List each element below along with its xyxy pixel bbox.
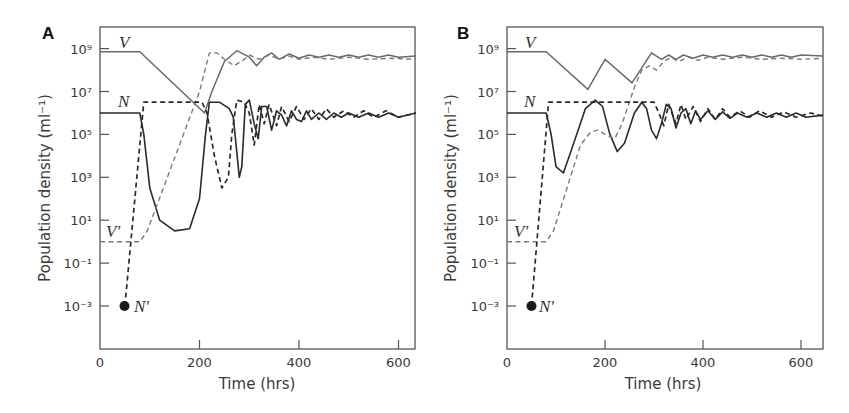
figure: A Population density (ml⁻¹) Time (hrs) 1… bbox=[0, 0, 849, 413]
curve-v-prime bbox=[100, 53, 416, 242]
panel-b: B Population density (ml⁻¹) Time (hrs) 1… bbox=[442, 24, 823, 393]
y-tick-label: 10⁷ bbox=[477, 85, 499, 100]
y-tick-label: 10¹ bbox=[477, 213, 499, 228]
y-tick-label: 10⁹ bbox=[70, 42, 92, 57]
y-tick-label: 10³ bbox=[477, 170, 499, 185]
x-tick-label: 0 bbox=[96, 355, 104, 370]
curve-label-vprime-a: V′ bbox=[106, 222, 120, 241]
curve-label-nprime-b: N′ bbox=[538, 297, 554, 316]
curve-v bbox=[100, 51, 416, 113]
x-tick-label: 200 bbox=[593, 355, 618, 370]
curves-a bbox=[100, 51, 416, 306]
x-tick-label: 400 bbox=[287, 355, 312, 370]
y-tick-label: 10⁻¹ bbox=[470, 256, 499, 271]
y-tick-label: 10¹ bbox=[70, 213, 92, 228]
curve-label-v-b: V bbox=[525, 33, 538, 52]
x-tick-label: 600 bbox=[386, 355, 411, 370]
initial-point-marker-b bbox=[527, 301, 537, 311]
y-tick-label: 10⁻³ bbox=[63, 299, 92, 314]
panel-label-a: A bbox=[42, 24, 54, 43]
y-tick-label: 10⁹ bbox=[477, 42, 499, 57]
curve-label-nprime-a: N′ bbox=[133, 297, 149, 316]
y-axis-title-b: Population density (ml⁻¹) bbox=[442, 94, 460, 282]
y-tick-label: 10⁻¹ bbox=[63, 256, 92, 271]
curve-n bbox=[507, 100, 823, 173]
curve-n-prime bbox=[125, 100, 416, 306]
curve-label-vprime-b: V′ bbox=[514, 222, 528, 241]
curve-label-n-a: N bbox=[117, 92, 131, 111]
curve-v bbox=[507, 52, 823, 90]
y-tick-label: 10⁵ bbox=[477, 127, 499, 142]
y-tick-label: 10⁻³ bbox=[470, 299, 499, 314]
y-tick-label: 10⁷ bbox=[70, 85, 92, 100]
x-tick-label: 200 bbox=[187, 355, 212, 370]
x-tick-label: 0 bbox=[503, 355, 511, 370]
curve-label-n-b: N bbox=[523, 92, 537, 111]
plot-frame-b bbox=[507, 27, 823, 349]
x-axis-title-a: Time (hrs) bbox=[218, 375, 296, 393]
curves-b bbox=[507, 52, 823, 306]
panel-a: A Population density (ml⁻¹) Time (hrs) 1… bbox=[36, 24, 416, 393]
x-axis-title-b: Time (hrs) bbox=[624, 375, 702, 393]
axis-ticks-b: 10⁹10⁷10⁵10³10¹10⁻¹10⁻³0200400600 bbox=[470, 42, 813, 370]
axis-ticks-a: 10⁹10⁷10⁵10³10¹10⁻¹10⁻³0200400600 bbox=[63, 42, 411, 370]
y-axis-title-a: Population density (ml⁻¹) bbox=[36, 94, 54, 282]
curve-label-v-a: V bbox=[119, 33, 132, 52]
curve-n-prime bbox=[532, 102, 824, 306]
y-tick-label: 10⁵ bbox=[70, 127, 92, 142]
initial-point-marker-a bbox=[120, 301, 130, 311]
curve-v-prime bbox=[507, 57, 823, 242]
panel-label-b: B bbox=[457, 24, 469, 43]
x-tick-label: 600 bbox=[789, 355, 814, 370]
y-tick-label: 10³ bbox=[70, 170, 92, 185]
x-tick-label: 400 bbox=[691, 355, 716, 370]
